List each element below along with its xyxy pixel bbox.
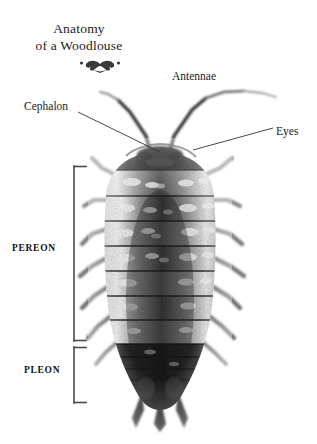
label-pereon: PEREON bbox=[12, 243, 56, 253]
woodlouse-illustration bbox=[0, 0, 317, 444]
left-antenna-flagellum bbox=[100, 92, 118, 100]
label-eyes: Eyes bbox=[276, 125, 298, 137]
title-line-1: Anatomy bbox=[14, 20, 144, 37]
label-antennae: Antennae bbox=[172, 70, 216, 82]
title-line-2: of a Woodlouse bbox=[14, 37, 144, 54]
right-antenna-flagellum bbox=[206, 91, 244, 98]
anatomy-figure: Anatomy of a Woodlouse Cephalon Antennae… bbox=[0, 0, 317, 444]
pleon-bracket bbox=[74, 347, 86, 403]
brackets bbox=[74, 166, 86, 403]
page-title: Anatomy of a Woodlouse bbox=[14, 20, 144, 54]
label-pleon: PLEON bbox=[24, 365, 60, 375]
decorative-flourish-icon bbox=[80, 61, 120, 73]
pereon-bracket bbox=[74, 166, 86, 341]
label-cephalon: Cephalon bbox=[24, 100, 68, 112]
right-antenna-tip bbox=[244, 91, 276, 97]
